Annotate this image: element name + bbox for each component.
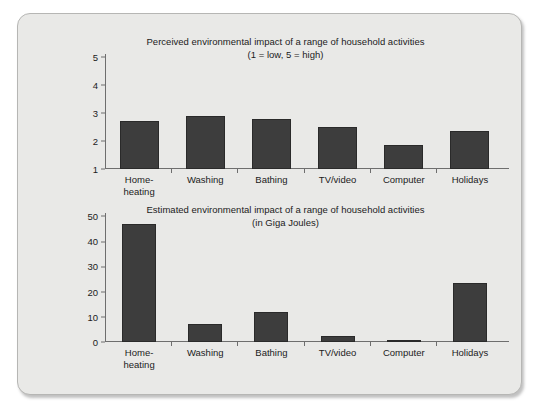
x-label-computer: Computer: [371, 347, 437, 370]
x-label-washing: Washing: [172, 347, 238, 370]
chart-perceived-x-ticks: [106, 169, 503, 173]
bar-slot: [238, 57, 304, 169]
bar-slot: [437, 216, 503, 342]
chart-perceived-impact: Perceived environmental impact of a rang…: [58, 36, 513, 196]
chart-estimated-impact: Estimated environmental impact of a rang…: [58, 204, 513, 384]
x-label-holidays: Holidays: [437, 174, 503, 197]
x-label-home-heating: Home-heating: [106, 174, 172, 197]
y-tick-40: 40: [87, 236, 105, 247]
chart-estimated-x-labels: Home-heating Washing Bathing TV/video Co…: [106, 347, 503, 370]
y-tick-2: 2: [93, 136, 105, 147]
chart-estimated-bars: [106, 216, 503, 342]
x-label-holidays: Holidays: [437, 347, 503, 370]
y-tick-5: 5: [93, 52, 105, 63]
bar-slot: [305, 216, 371, 342]
x-label-tv-video: TV/video: [305, 347, 371, 370]
chart-perceived-bars: [106, 57, 503, 169]
bar-slot: [437, 57, 503, 169]
bar-bathing: [252, 119, 291, 169]
bar-slot: [106, 216, 172, 342]
bar-washing: [188, 324, 222, 342]
figure-panel: Perceived environmental impact of a rang…: [17, 13, 522, 395]
y-tick-20: 20: [87, 286, 105, 297]
bar-holidays: [450, 131, 489, 169]
bar-slot: [172, 57, 238, 169]
y-tick-50: 50: [87, 211, 105, 222]
bar-slot: [172, 216, 238, 342]
bar-slot: [371, 216, 437, 342]
bar-slot: [305, 57, 371, 169]
bar-washing: [186, 116, 225, 169]
bar-holidays: [453, 283, 487, 342]
bar-home-heating: [122, 224, 156, 342]
bar-slot: [106, 57, 172, 169]
y-tick-10: 10: [87, 311, 105, 322]
bar-home-heating: [120, 121, 159, 169]
bar-slot: [371, 57, 437, 169]
x-label-home-heating: Home-heating: [106, 347, 172, 370]
x-label-bathing: Bathing: [238, 174, 304, 197]
x-label-washing: Washing: [172, 174, 238, 197]
screenshot-root: Perceived environmental impact of a rang…: [0, 0, 538, 416]
x-label-tv-video: TV/video: [305, 174, 371, 197]
y-tick-0: 0: [93, 337, 105, 348]
chart-estimated-plot-area: 50 40 30 20 10 0: [105, 216, 503, 342]
bar-computer: [384, 145, 423, 169]
y-tick-3: 3: [93, 108, 105, 119]
x-label-bathing: Bathing: [238, 347, 304, 370]
chart-perceived-title-line1: Perceived environmental impact of a rang…: [146, 36, 424, 47]
y-tick-1: 1: [93, 164, 105, 175]
bar-slot: [238, 216, 304, 342]
chart-perceived-plot-area: 5 4 3 2 1 Home-heating: [105, 57, 503, 169]
bar-bathing: [254, 312, 288, 342]
chart-perceived-x-labels: Home-heating Washing Bathing TV/video Co…: [106, 174, 503, 197]
chart-estimated-x-ticks: [106, 342, 503, 346]
bar-tv-video: [318, 127, 357, 169]
chart-estimated-title-line1: Estimated environmental impact of a rang…: [146, 204, 424, 215]
y-tick-30: 30: [87, 261, 105, 272]
x-label-computer: Computer: [371, 174, 437, 197]
y-tick-4: 4: [93, 80, 105, 91]
